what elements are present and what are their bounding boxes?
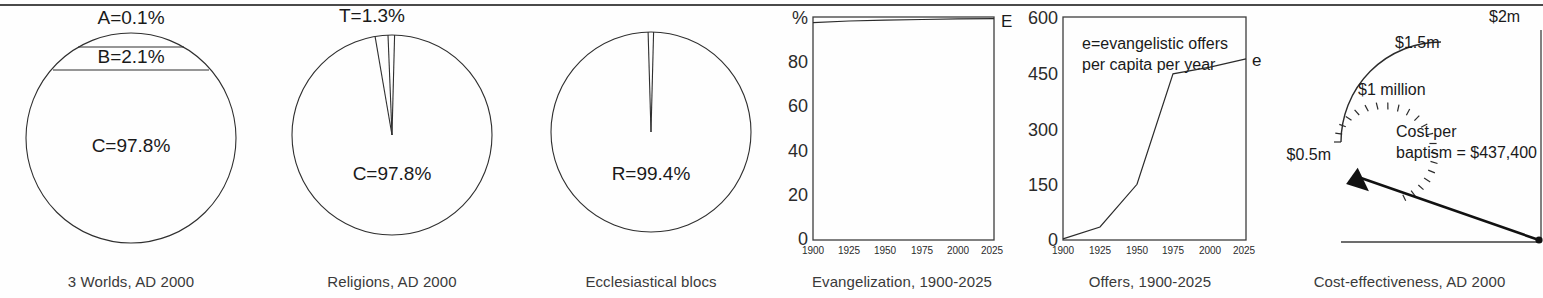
ytick-450: 450 (1028, 64, 1058, 84)
xtick-1925: 1925 (1089, 245, 1112, 256)
series-line-e (1063, 59, 1246, 239)
xtick-1975: 1975 (911, 245, 934, 256)
label-segment-c: C=97.8% (353, 163, 432, 184)
caption-three-worlds: 3 Worlds, AD 2000 (0, 273, 262, 290)
ytick-300: 300 (1028, 120, 1058, 140)
annotation-line-1: e=evangelistic offers (1082, 35, 1228, 52)
xtick-1925: 1925 (838, 245, 861, 256)
ytick-600: 600 (1028, 8, 1058, 28)
caption-ecclesiastical-blocs: Ecclesiastical blocs (522, 273, 780, 290)
label-segment-t: T=1.3% (339, 5, 405, 26)
series-label-e: e (1252, 51, 1261, 70)
panel-cost-effectiveness: $0.5m $1 million $1.5m $2m Cost per bapt… (1276, 0, 1543, 298)
gauge-label-0-5m: $0.5m (1287, 146, 1331, 163)
gauge-label-1m: $1 million (1358, 81, 1426, 98)
gauge-pivot (1535, 236, 1542, 243)
xtick-1950: 1950 (874, 245, 897, 256)
wedge-edge-3 (392, 35, 395, 135)
wedge-edge-2 (651, 32, 654, 132)
gauge-value-line-1: Cost per (1396, 123, 1457, 140)
ytick-40: 40 (788, 141, 808, 161)
chart-three-worlds: A=0.1% B=2.1% C=97.8% (0, 0, 262, 260)
xtick-1900: 1900 (802, 245, 825, 256)
ytick-80: 80 (788, 52, 808, 72)
label-segment-b: B=2.1% (97, 46, 164, 67)
label-segment-c: C=97.8% (92, 135, 171, 156)
xtick-2000: 2000 (1199, 245, 1222, 256)
panel-evangelization: % 80 60 40 20 0 1900 1925 1950 1975 2000… (780, 0, 1024, 298)
gauge-label-2m: $2m (1489, 8, 1520, 25)
gauge-value-line-2: baptism = $437,400 (1396, 144, 1537, 161)
figure-strip: A=0.1% B=2.1% C=97.8% 3 Worlds, AD 2000 … (0, 0, 1543, 298)
series-label-E: E (1001, 12, 1012, 31)
xtick-2000: 2000 (947, 245, 970, 256)
xtick-1900: 1900 (1052, 245, 1075, 256)
gauge-label-1-5m: $1.5m (1395, 34, 1439, 51)
series-line-E (813, 19, 994, 23)
xtick-1950: 1950 (1126, 245, 1149, 256)
panel-three-worlds: A=0.1% B=2.1% C=97.8% 3 Worlds, AD 2000 (0, 0, 262, 298)
chart-offers: 600 450 300 150 0 1900 1925 1950 1975 20… (1024, 0, 1276, 262)
wedge-edge-1 (375, 37, 392, 135)
ytick-percent: % (792, 8, 808, 28)
xtick-1975: 1975 (1162, 245, 1185, 256)
label-segment-a: A=0.1% (97, 7, 164, 28)
caption-offers: Offers, 1900-2025 (1024, 273, 1276, 290)
wedge-edge-2 (388, 35, 392, 135)
panel-offers: 600 450 300 150 0 1900 1925 1950 1975 20… (1024, 0, 1276, 298)
gauge-needle-arrowhead (1346, 166, 1375, 191)
chart-cost-effectiveness: $0.5m $1 million $1.5m $2m Cost per bapt… (1276, 0, 1543, 262)
ytick-20: 20 (788, 185, 808, 205)
caption-cost-effectiveness: Cost-effectiveness, AD 2000 (1276, 273, 1543, 290)
caption-religions: Religions, AD 2000 (262, 273, 522, 290)
xtick-2025: 2025 (981, 245, 1004, 256)
label-segment-r: R=99.4% (612, 163, 691, 184)
annotation-line-2: per capita per year (1082, 56, 1216, 73)
plot-frame (813, 17, 994, 240)
gauge-needle (1361, 178, 1539, 240)
caption-evangelization: Evangelization, 1900-2025 (780, 273, 1024, 290)
chart-evangelization: % 80 60 40 20 0 1900 1925 1950 1975 2000… (780, 0, 1024, 262)
ytick-60: 60 (788, 96, 808, 116)
chart-ecclesiastical-blocs: R=99.4% (522, 0, 780, 260)
chart-religions: T=1.3% C=97.8% (262, 0, 522, 260)
ytick-150: 150 (1028, 175, 1058, 195)
xtick-2025: 2025 (1233, 245, 1256, 256)
panel-religions: T=1.3% C=97.8% Religions, AD 2000 (262, 0, 522, 298)
wedge-edge-1 (648, 32, 651, 132)
panel-ecclesiastical-blocs: R=99.4% Ecclesiastical blocs (522, 0, 780, 298)
